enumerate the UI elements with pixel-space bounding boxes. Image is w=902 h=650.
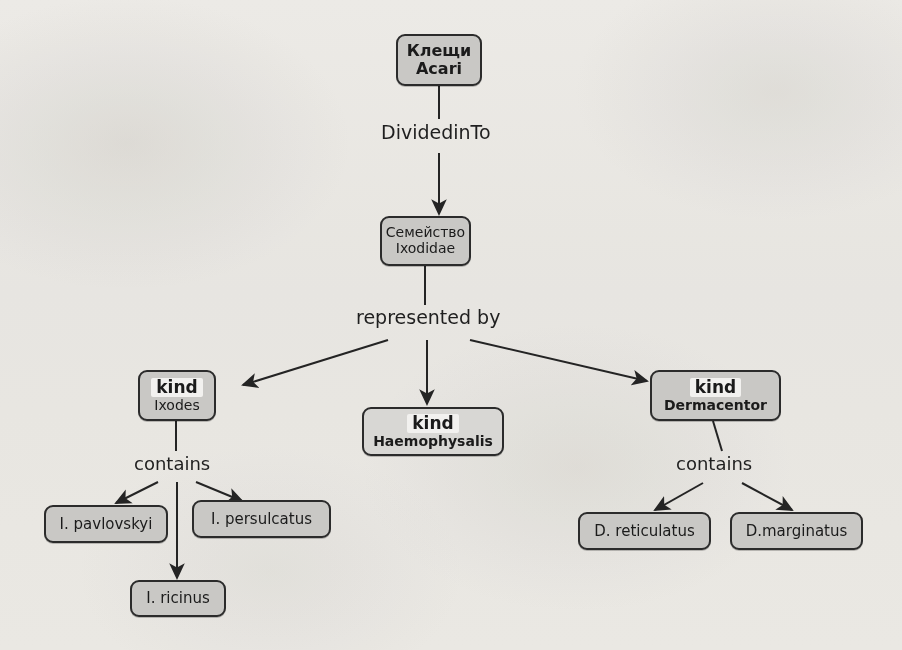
- node-dermacentor[interactable]: kind Dermacentor: [650, 370, 781, 421]
- node-d-marginatus-label: D.marginatus: [746, 523, 848, 540]
- node-ixodes-line2: Ixodes: [154, 398, 199, 414]
- node-i-pavlovskyi[interactable]: I. pavlovskyi: [44, 505, 168, 543]
- node-ixodes[interactable]: kind Ixodes: [138, 370, 216, 421]
- node-i-ricinus[interactable]: I. ricinus: [130, 580, 226, 617]
- node-haemophysalis-kind-label: kind: [407, 414, 458, 433]
- edge-contains-to-reticulatus: [655, 483, 703, 510]
- edge-contains-to-pavlovskyi: [116, 482, 158, 503]
- node-ixodidae[interactable]: Семейство Ixodidae: [380, 216, 471, 266]
- node-ixodidae-line2: Ixodidae: [396, 241, 455, 257]
- node-haemophysalis-line2: Haemophysalis: [373, 434, 493, 450]
- node-dermacentor-line2: Dermacentor: [664, 398, 767, 414]
- edge-label-contains-dermacentor: contains: [676, 453, 752, 474]
- edge-representedby-to-ixodes: [243, 340, 388, 385]
- edge-representedby-to-dermacentor: [470, 340, 647, 381]
- node-haemophysalis[interactable]: kind Haemophysalis: [362, 407, 504, 456]
- edge-contains-to-persulcatus: [196, 482, 242, 501]
- node-d-reticulatus[interactable]: D. reticulatus: [578, 512, 711, 550]
- node-d-marginatus[interactable]: D.marginatus: [730, 512, 863, 550]
- concept-map-canvas: Клещи Acari Семейство Ixodidae kind Ixod…: [0, 0, 902, 650]
- edge-label-contains-ixodes: contains: [134, 453, 210, 474]
- edge-label-represented-by: represented by: [356, 306, 500, 328]
- node-ixodidae-line1: Семейство: [386, 225, 465, 241]
- node-d-reticulatus-label: D. reticulatus: [594, 523, 695, 540]
- edge-dermacentor-to-contains: [713, 421, 722, 451]
- node-acari-line1: Клещи: [407, 42, 472, 60]
- node-ixodes-kind-label: kind: [151, 378, 202, 397]
- edge-contains-to-marginatus: [742, 483, 792, 510]
- node-i-persulcatus[interactable]: I. persulcatus: [192, 500, 331, 538]
- node-acari[interactable]: Клещи Acari: [396, 34, 482, 86]
- node-i-pavlovskyi-label: I. pavlovskyi: [60, 516, 153, 533]
- node-acari-line2: Acari: [416, 60, 462, 78]
- node-dermacentor-kind-label: kind: [690, 378, 741, 397]
- node-i-ricinus-label: I. ricinus: [146, 590, 210, 607]
- node-i-persulcatus-label: I. persulcatus: [211, 511, 312, 528]
- edge-label-dividedinto: DividedinTo: [381, 121, 491, 143]
